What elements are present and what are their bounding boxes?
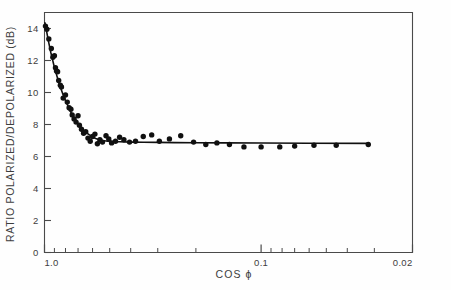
x-axis-tick-labels: 1.00.10.02 bbox=[45, 257, 413, 268]
chart-canvas: 1.00.10.02 02468101214 COS ϕ RATIO POLAR… bbox=[0, 0, 451, 290]
y-tick-label: 6 bbox=[33, 151, 39, 162]
data-point bbox=[167, 136, 172, 141]
y-axis-title: RATIO POLARIZED/DEPOLARIZED (dB) bbox=[4, 26, 16, 242]
data-point bbox=[83, 129, 88, 134]
fit-curve-path bbox=[45, 23, 368, 143]
data-point bbox=[292, 143, 297, 148]
data-point bbox=[227, 142, 232, 147]
data-point bbox=[63, 92, 68, 97]
y-tick-label: 14 bbox=[27, 23, 38, 34]
data-point bbox=[44, 27, 49, 32]
y-tick-label: 8 bbox=[33, 119, 39, 130]
y-tick-label: 10 bbox=[27, 87, 38, 98]
fitted-curve bbox=[45, 23, 368, 143]
data-point bbox=[366, 142, 371, 147]
axis-frame bbox=[45, 13, 413, 253]
x-tick-label: 0.02 bbox=[393, 257, 413, 268]
data-points bbox=[43, 23, 371, 149]
data-point bbox=[334, 143, 339, 148]
data-point bbox=[49, 46, 54, 51]
data-point bbox=[46, 36, 51, 41]
data-point bbox=[258, 144, 263, 149]
x-tick-label: 1.0 bbox=[45, 257, 59, 268]
data-point bbox=[55, 69, 60, 74]
y-tick-label: 4 bbox=[33, 183, 39, 194]
data-point bbox=[92, 131, 97, 136]
data-point bbox=[52, 53, 57, 58]
data-point bbox=[157, 139, 162, 144]
data-point bbox=[68, 107, 73, 112]
data-point bbox=[141, 134, 146, 139]
data-point bbox=[113, 139, 118, 144]
data-point bbox=[59, 84, 64, 89]
data-point bbox=[121, 137, 126, 142]
x-axis-title: COS ϕ bbox=[215, 268, 252, 280]
data-point bbox=[149, 132, 154, 137]
figure-container: 1.00.10.02 02468101214 COS ϕ RATIO POLAR… bbox=[0, 0, 451, 290]
data-point bbox=[88, 139, 93, 144]
data-point bbox=[277, 144, 282, 149]
y-tick-label: 12 bbox=[27, 55, 38, 66]
data-point bbox=[203, 142, 208, 147]
x-tick-label: 0.1 bbox=[254, 257, 268, 268]
data-point bbox=[241, 144, 246, 149]
data-point bbox=[133, 139, 138, 144]
data-point bbox=[56, 78, 61, 83]
y-tick-label: 2 bbox=[33, 215, 39, 226]
x-axis-ticks bbox=[45, 245, 413, 253]
data-point bbox=[100, 139, 105, 144]
data-point bbox=[65, 99, 70, 104]
y-axis-tick-labels: 02468101214 bbox=[27, 23, 38, 258]
y-axis-ticks bbox=[45, 29, 52, 253]
data-point bbox=[311, 143, 316, 148]
plot-frame bbox=[45, 13, 413, 253]
data-point bbox=[75, 113, 80, 118]
data-point bbox=[191, 139, 196, 144]
data-point bbox=[214, 140, 219, 145]
data-point bbox=[127, 139, 132, 144]
data-point bbox=[178, 133, 183, 138]
y-tick-label: 0 bbox=[33, 247, 39, 258]
